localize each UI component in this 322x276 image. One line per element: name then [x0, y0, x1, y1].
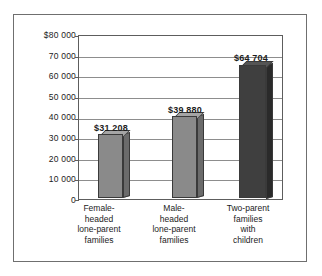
x-category-line: Male-: [136, 203, 212, 214]
y-tick-label-20000: 20 000: [18, 155, 76, 164]
x-category-line: families: [136, 235, 212, 246]
y-tick-label-80000: $80 000: [18, 31, 76, 40]
bar-side-face: [123, 132, 130, 198]
x-category-label-female-headed: Female- headed lone-parent families: [61, 203, 137, 245]
bar-chart: $80 000 70 000 60 000 50 000 40 000 30 0…: [0, 0, 322, 276]
x-category-line: families: [61, 235, 137, 246]
bar-front-face: [172, 116, 197, 198]
y-tickmark-60000: [75, 77, 79, 78]
y-tickmark-70000: [75, 57, 79, 58]
value-label-male-headed: $39 880: [152, 106, 218, 115]
y-tickmark-40000: [75, 119, 79, 120]
y-tickmark-80000: [75, 36, 79, 37]
y-tickmark-0: [75, 200, 79, 201]
x-category-line: families: [208, 214, 288, 225]
x-category-label-male-headed: Male- headed lone-parent families: [136, 203, 212, 245]
bar-male-headed[interactable]: [172, 109, 197, 198]
bar-side-face: [266, 62, 273, 198]
y-tick-label-50000: 50 000: [18, 93, 76, 102]
y-tick-label-10000: 10 000: [18, 175, 76, 184]
bar-two-parent[interactable]: [239, 58, 266, 199]
x-category-line: Two-parent: [208, 203, 288, 214]
x-category-line: lone-parent: [136, 224, 212, 235]
bar-front-face: [239, 65, 266, 199]
y-tickmark-50000: [75, 98, 79, 99]
y-tickmark-10000: [75, 180, 79, 181]
x-category-label-two-parent: Two-parent families with children: [208, 203, 288, 245]
y-tick-label-60000: 60 000: [18, 72, 76, 81]
x-category-line: with: [208, 224, 288, 235]
y-tick-label-40000: 40 000: [18, 113, 76, 122]
y-axis: $80 000 70 000 60 000 50 000 40 000 30 0…: [18, 35, 76, 200]
value-label-two-parent: $64 704: [218, 54, 284, 63]
y-tickmark-30000: [75, 139, 79, 140]
x-category-line: children: [208, 235, 288, 246]
y-tick-label-30000: 30 000: [18, 134, 76, 143]
bar-side-face: [197, 114, 204, 198]
bar-female-headed[interactable]: [98, 127, 123, 198]
x-category-line: headed: [136, 214, 212, 225]
y-tick-label-70000: 70 000: [18, 52, 76, 61]
bar-front-face: [98, 134, 123, 198]
y-tickmark-20000: [75, 160, 79, 161]
x-category-line: headed: [61, 214, 137, 225]
x-category-line: lone-parent: [61, 224, 137, 235]
value-label-female-headed: $31 208: [78, 124, 144, 133]
x-category-line: Female-: [61, 203, 137, 214]
